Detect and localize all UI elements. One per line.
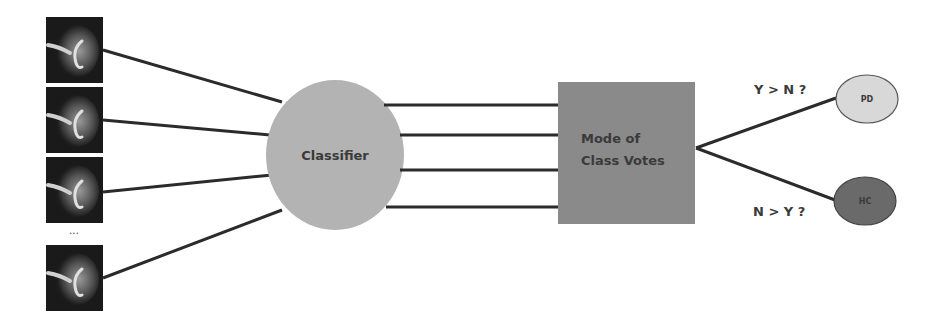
decision-branches bbox=[696, 98, 836, 200]
ellipsis: ... bbox=[69, 223, 79, 237]
input-image-2 bbox=[46, 87, 103, 153]
mode-label-line2: Class Votes bbox=[581, 153, 665, 168]
vote-connectors bbox=[384, 105, 558, 207]
input-image-3 bbox=[46, 157, 103, 223]
pd-label: PD bbox=[861, 95, 874, 104]
classifier-label: Classifier bbox=[301, 148, 369, 163]
condition-hc: N > Y ? bbox=[753, 204, 805, 219]
condition-pd: Y > N ? bbox=[753, 82, 806, 97]
input-connectors bbox=[103, 50, 282, 278]
pipeline-diagram: ... Classifier Mode of Class Votes Y > N… bbox=[0, 0, 948, 325]
mode-label-line1: Mode of bbox=[581, 131, 640, 146]
hc-label: HC bbox=[859, 197, 872, 206]
input-image-1 bbox=[46, 17, 103, 83]
input-image-n bbox=[46, 245, 103, 311]
